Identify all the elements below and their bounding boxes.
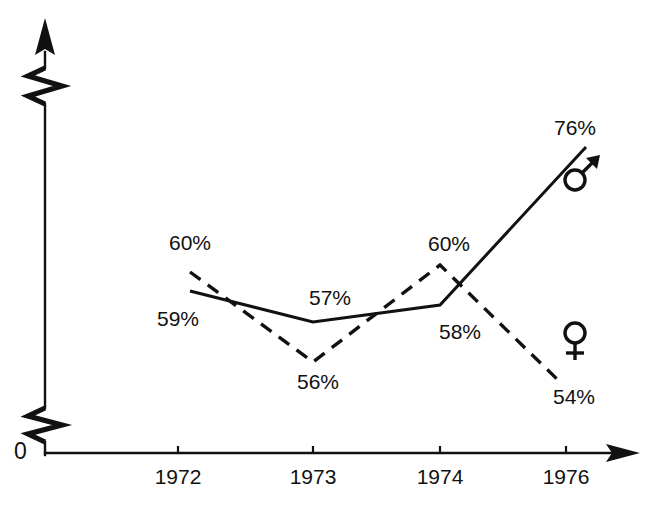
data-label-female-1974: 60% <box>428 232 470 255</box>
data-label-male-1974: 58% <box>439 320 481 343</box>
data-label-male-1973: 57% <box>309 286 351 309</box>
data-label-male-1972: 59% <box>157 307 199 330</box>
y-axis <box>28 18 62 455</box>
y-axis-break-lower-icon <box>28 408 62 442</box>
series-line-male <box>190 147 586 322</box>
x-axis <box>45 444 640 462</box>
female-symbol-icon <box>565 323 585 360</box>
line-chart: 0 1972 1973 1974 1976 60% 59% 57% 56% 60… <box>0 0 660 508</box>
data-label-female-1973: 56% <box>297 370 339 393</box>
data-label-female-1976: 54% <box>553 385 595 408</box>
chart-canvas: 0 1972 1973 1974 1976 60% 59% 57% 56% 60… <box>0 0 660 508</box>
x-tick-label-1973: 1973 <box>290 465 337 488</box>
series-line-female <box>190 265 560 382</box>
y-axis-arrow-icon <box>35 18 55 55</box>
y-axis-zero-label: 0 <box>14 438 27 464</box>
x-tick-label-1974: 1974 <box>417 465 464 488</box>
data-label-male-1976: 76% <box>554 116 596 139</box>
data-label-female-1972: 60% <box>169 231 211 254</box>
x-tick-label-1976: 1976 <box>543 465 590 488</box>
y-axis-break-upper-icon <box>28 68 62 104</box>
x-tick-label-1972: 1972 <box>155 465 202 488</box>
male-symbol-icon <box>565 155 600 190</box>
